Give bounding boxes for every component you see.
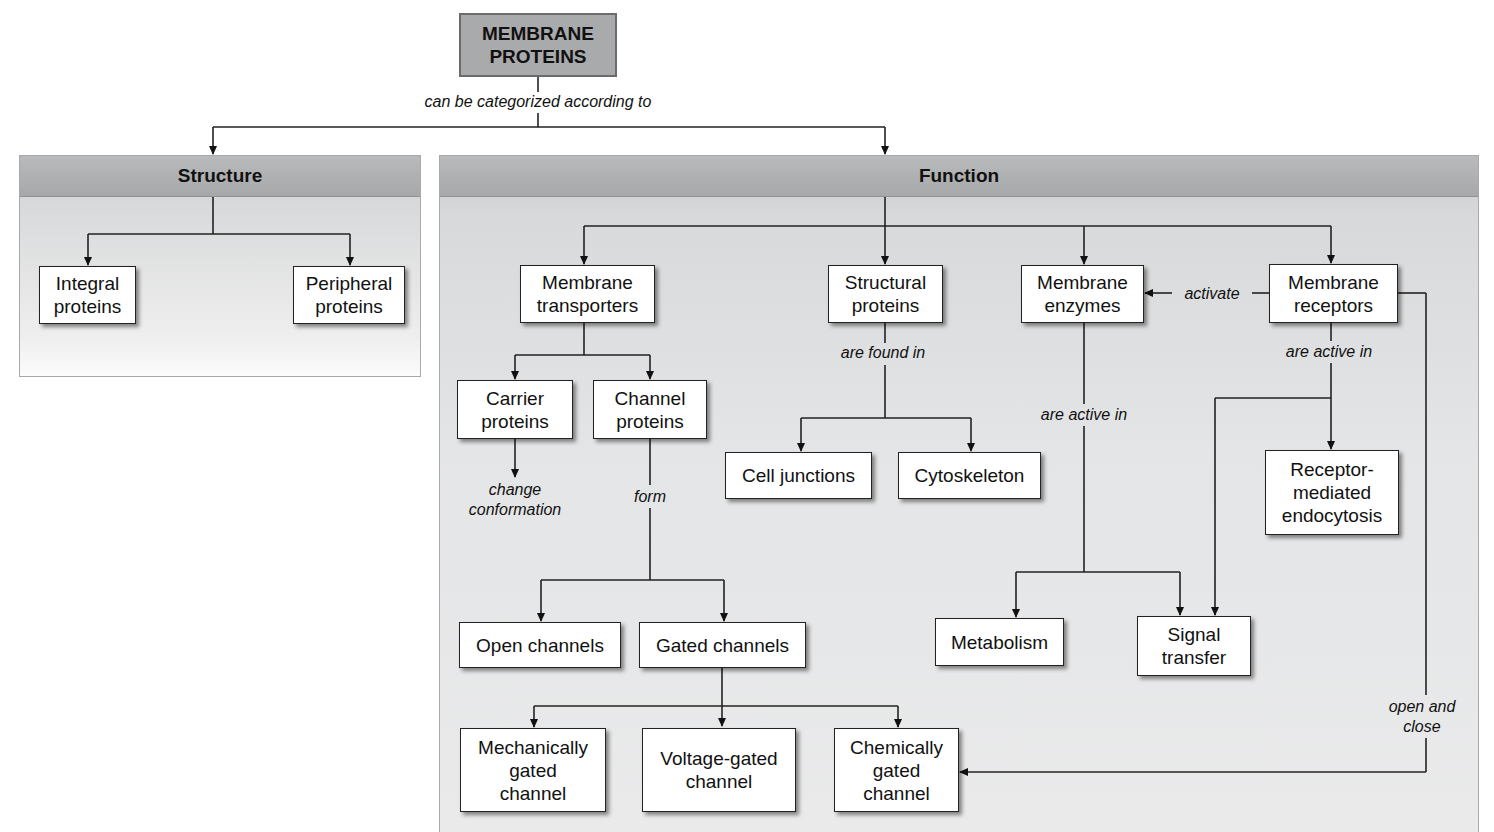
node-membrane-receptors: Membrane receptors bbox=[1269, 264, 1398, 323]
node-voltage-gated-channel: Voltage-gated channel bbox=[642, 728, 796, 812]
link-label-are-active-in-enzymes: are active in bbox=[1024, 405, 1144, 425]
link-label-form: form bbox=[620, 487, 680, 507]
node-integral-proteins: Integral proteins bbox=[39, 266, 136, 324]
link-label-activate: activate bbox=[1172, 284, 1252, 304]
node-structural-proteins: Structural proteins bbox=[828, 265, 943, 323]
node-peripheral-proteins: Peripheral proteins bbox=[293, 266, 405, 324]
node-membrane-transporters: Membrane transporters bbox=[520, 265, 655, 323]
node-membrane-enzymes: Membrane enzymes bbox=[1021, 265, 1144, 323]
link-label-open-and-close: open and close bbox=[1376, 697, 1468, 737]
link-label-are-found-in: are found in bbox=[818, 343, 948, 363]
node-cytoskeleton: Cytoskeleton bbox=[898, 452, 1041, 499]
node-receptor-mediated-endocytosis: Receptor- mediated endocytosis bbox=[1265, 450, 1399, 535]
node-cell-junctions: Cell junctions bbox=[725, 452, 872, 499]
link-label-are-active-in-receptors: are active in bbox=[1269, 342, 1389, 362]
node-metabolism: Metabolism bbox=[935, 618, 1064, 666]
node-gated-channels: Gated channels bbox=[639, 622, 806, 668]
node-carrier-proteins: Carrier proteins bbox=[457, 380, 573, 439]
node-signal-transfer: Signal transfer bbox=[1137, 616, 1251, 676]
link-label-categorized: can be categorized according to bbox=[398, 92, 678, 112]
node-open-channels: Open channels bbox=[459, 622, 621, 668]
node-channel-proteins: Channel proteins bbox=[593, 380, 707, 439]
link-label-change-conformation: change conformation bbox=[450, 480, 580, 520]
node-chemically-gated-channel: Chemically gated channel bbox=[834, 728, 959, 812]
root-node-membrane-proteins: MEMBRANE PROTEINS bbox=[459, 13, 617, 77]
node-mechanically-gated-channel: Mechanically gated channel bbox=[460, 728, 606, 812]
